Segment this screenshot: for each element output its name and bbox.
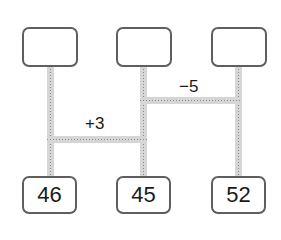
top-answer-box-2[interactable]	[116, 27, 172, 67]
top-answer-box-3[interactable]	[211, 27, 267, 67]
connector-plus-3	[47, 136, 147, 143]
rail-column-3	[235, 66, 242, 177]
operation-label-plus-3: +3	[85, 114, 104, 134]
bottom-value-box-2: 45	[116, 176, 171, 214]
top-answer-box-1[interactable]	[22, 27, 78, 67]
rail-column-2	[140, 66, 147, 177]
bottom-value-box-1: 46	[22, 176, 77, 214]
operation-label-minus-5: −5	[179, 77, 198, 97]
rail-column-1	[47, 66, 54, 177]
bottom-value-box-3: 52	[211, 176, 266, 214]
connector-minus-5	[140, 97, 242, 104]
